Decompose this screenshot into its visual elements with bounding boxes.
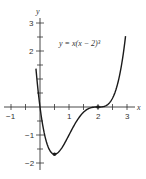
inflection-point — [96, 105, 100, 109]
y-tick-label-neg1: −1 — [25, 131, 35, 140]
y-tick-label-neg2: −2 — [25, 159, 35, 168]
curve-line — [36, 36, 126, 154]
y-tick-label-3: 3 — [29, 19, 34, 28]
minimum-point — [53, 153, 57, 157]
function-graph: −1 1 2 3 3 2 −1 −2 x y y = x(x − 2)³ — [0, 0, 146, 179]
x-tick-label-neg1: −1 — [6, 112, 16, 121]
y-tick-label-2: 2 — [29, 47, 34, 56]
x-tick-label-2: 2 — [96, 112, 101, 121]
x-axis-label: x — [136, 103, 141, 112]
y-axis-label: y — [35, 7, 40, 16]
equation-label: y = x(x − 2)³ — [58, 39, 101, 48]
x-tick-label-3: 3 — [125, 112, 130, 121]
x-tick-label-1: 1 — [67, 112, 72, 121]
